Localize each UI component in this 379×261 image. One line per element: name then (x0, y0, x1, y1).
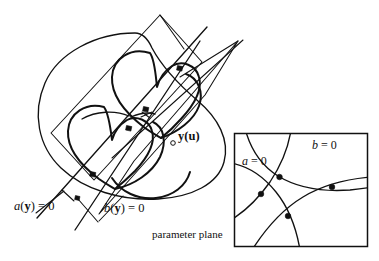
label-a-equals-zero: a = 0 (242, 155, 267, 167)
label-a-equals: = (35, 199, 48, 213)
label-y-close-paren: ) (195, 129, 199, 143)
label-param-b-equals: = (318, 138, 331, 152)
figure-root: a(y) = 0 b(y) = 0 y(u) parameter plane a… (0, 0, 379, 261)
label-param-b-value: 0 (331, 138, 337, 152)
label-b-equals-zero: b = 0 (312, 139, 337, 151)
label-parameter-plane: parameter plane (152, 229, 223, 240)
point-marker-y-of-u (171, 141, 176, 146)
label-a-of-y-equals-zero: a(y) = 0 (14, 200, 54, 213)
label-b-value: 0 (138, 201, 144, 215)
loop-curve-upper (112, 51, 200, 138)
label-a-value: 0 (48, 199, 54, 213)
label-b-equals: = (125, 201, 138, 215)
label-param-a-equals: = (248, 154, 261, 168)
label-param-a-value: 0 (261, 154, 267, 168)
label-b-of-y-equals-zero: b(y) = 0 (104, 202, 144, 215)
parameter-plane-box (231, 130, 372, 250)
label-y-of-u: y(u) (178, 130, 200, 143)
